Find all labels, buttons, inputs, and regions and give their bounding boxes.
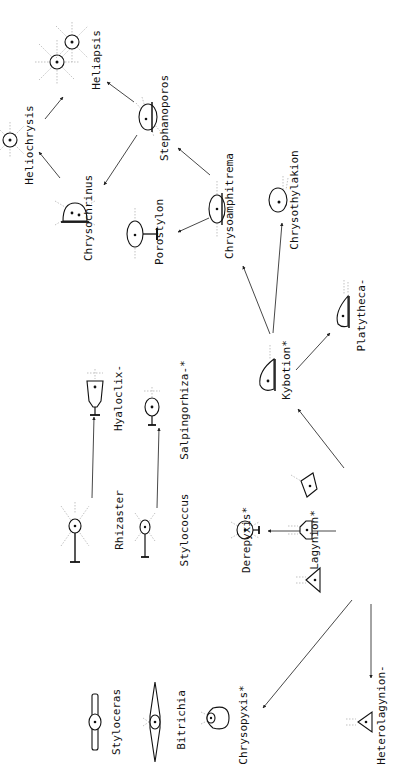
- label-lagynion: Lagynion*: [308, 510, 321, 570]
- label-chrysopyxis: Chrysopyxis*: [237, 685, 250, 764]
- edge-stephanoporos-to-heliapsis: [107, 82, 134, 102]
- edge-lagynion_b-to-kybotion: [298, 409, 344, 468]
- label-salpingorhiza: Salpingorhiza-*: [178, 360, 191, 459]
- organism-rhizaster-icon: [61, 502, 89, 562]
- organism-platytheca-icon: [337, 280, 349, 328]
- label-platytheca: Platytheca-: [355, 279, 368, 352]
- label-bitrichia: Bitrichia: [175, 690, 188, 750]
- label-chrysothylakion: Chrysothylakion: [288, 150, 301, 249]
- chrysophyte-evolution-diagram: HeliapsisHeliochrysisStephanoporosChryso…: [0, 0, 398, 780]
- organism-styloceras-icon: [89, 694, 101, 750]
- edge-stylococcus-to-salpingorhiza: [157, 428, 159, 508]
- label-heterolagynion: Heterolagynion-: [375, 665, 388, 764]
- labels-layer: HeliapsisHeliochrysisStephanoporosChryso…: [23, 30, 388, 765]
- organism-hyaloclix-icon: [87, 369, 103, 415]
- organism-stephanoporos-icon: [136, 97, 160, 137]
- label-rhizaster: Rhizaster: [113, 490, 126, 550]
- edge-lagynion_c-to-chrysopyxis: [263, 600, 352, 708]
- edge-stephanoporos-to-chrysochrinus: [104, 135, 137, 185]
- organism-kybotion-icon: [260, 345, 275, 391]
- organism-chrysopyxis-icon: [201, 707, 229, 729]
- edge-chrysoamphitrema-to-stephanoporos: [178, 148, 210, 175]
- edge-kybotion-to-chrysoamphitrema: [243, 266, 270, 334]
- edge-chrysoamphitrema-to-porostylon: [178, 218, 209, 232]
- label-chrysochrinus: Chrysochrinus: [82, 175, 95, 261]
- label-derepyxis: Derepyxis*: [240, 507, 253, 573]
- label-heliapsis: Heliapsis: [90, 30, 103, 90]
- edge-kybotion-to-chrysothylakion: [273, 223, 282, 333]
- edge-kybotion-to-platytheca: [296, 333, 330, 370]
- organism-heliapsis-icon: [35, 22, 88, 84]
- label-stephanoporos: Stephanoporos: [158, 75, 171, 161]
- label-styloceras: Styloceras: [110, 689, 123, 755]
- organism-bitrichia-icon: [143, 682, 160, 762]
- organism-stylococcus-icon: [135, 513, 155, 557]
- label-kybotion: Kybotion*: [280, 340, 293, 400]
- label-chrysoamphitrema: Chrysoamphitrema: [223, 153, 236, 259]
- organism-chrysothylakion-icon: [269, 176, 288, 212]
- edge-heliochrysis-to-heliapsis: [45, 97, 63, 119]
- organism-heterolagynion-icon: [346, 712, 372, 732]
- label-hyaloclix: Hyaloclix-: [112, 365, 125, 431]
- label-heliochrysis: Heliochrysis: [23, 105, 36, 184]
- label-porostylon: Porostylon: [153, 199, 166, 265]
- edge-chrysochrinus-to-heliochrysis: [39, 152, 60, 178]
- organism-heliochrysis-icon: [0, 122, 24, 158]
- edge-rhizaster-to-hyaloclix: [92, 417, 94, 498]
- organism-salpingorhiza-icon: [144, 387, 160, 425]
- label-stylococcus: Stylococcus: [178, 494, 191, 567]
